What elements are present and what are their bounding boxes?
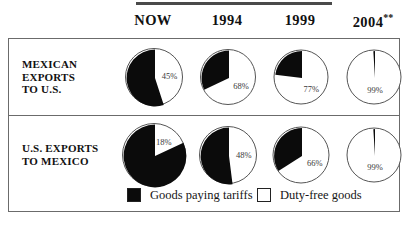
legend-item-tariff: Goods paying tariffs — [127, 183, 253, 207]
column-header-label: 1994 — [212, 12, 243, 28]
legend-label: Goods paying tariffs — [150, 188, 253, 203]
row-label-line: EXPORTS — [22, 71, 114, 83]
pie-slice-goods-paying-tariffs — [127, 50, 164, 107]
legend: Goods paying tariffsDuty-free goods — [9, 183, 399, 207]
infographic-root: NOW199419992004** MEXICANEXPORTSTO U.S.4… — [0, 0, 417, 228]
pie-slices — [275, 51, 330, 106]
column-header-label: 2004 — [353, 14, 384, 30]
pie-chart: 99% — [347, 127, 402, 182]
pie-slices — [201, 50, 257, 106]
column-header-row: NOW199419992004** — [8, 12, 401, 36]
pie-slices — [348, 128, 403, 183]
pie-chart: 99% — [347, 50, 402, 105]
pie-value-label: 48% — [236, 150, 252, 160]
row-label-line: MEXICAN — [22, 58, 114, 70]
column-header-3: 1999 — [263, 12, 337, 29]
pie-value-label: 77% — [304, 84, 320, 94]
pie-cell: 66% — [264, 116, 338, 193]
column-header-4: 2004** — [336, 12, 410, 31]
row-label-line: TO U.S. — [22, 83, 114, 95]
pie-value-label: 68% — [233, 81, 249, 91]
pie-slices — [274, 127, 331, 184]
pie-chart: 45% — [125, 48, 183, 106]
column-header-2: 1994 — [190, 12, 264, 29]
pie-chart: 48% — [199, 126, 257, 184]
top-divider-rule — [136, 2, 332, 5]
pie-slices — [123, 124, 187, 188]
pie-chart: 68% — [200, 49, 256, 105]
table-row: U.S. EXPORTSTO MEXICO18%48%66%99% — [9, 116, 399, 193]
pie-slice-goods-paying-tariffs — [275, 51, 302, 78]
legend-label: Duty-free goods — [280, 188, 362, 203]
row-label-line: TO MEXICO — [22, 155, 114, 167]
column-header-label: NOW — [134, 12, 171, 28]
pie-slices — [348, 51, 403, 106]
pie-value-label: 99% — [367, 84, 383, 94]
pie-slice-goods-paying-tariffs — [373, 51, 375, 78]
pie-cell: 77% — [264, 39, 338, 115]
pie-slice-goods-paying-tariffs — [201, 127, 233, 184]
pie-slice-goods-paying-tariffs — [124, 124, 187, 187]
pie-cell: 99% — [337, 116, 411, 193]
pie-cell: 45% — [117, 39, 191, 115]
legend-swatch-duty-free — [257, 188, 271, 202]
table-row: MEXICANEXPORTSTO U.S.45%68%77%99% — [9, 39, 399, 116]
pie-value-label: 66% — [307, 158, 323, 168]
pie-value-label: 18% — [156, 137, 172, 147]
pie-cell: 18% — [117, 116, 191, 193]
column-header-label: 1999 — [285, 12, 316, 28]
pie-slice-goods-paying-tariffs — [373, 129, 375, 156]
pie-slice-goods-paying-tariffs — [202, 51, 229, 90]
pie-value-label: 45% — [162, 71, 178, 81]
pie-cell: 99% — [337, 39, 411, 115]
pie-chart: 66% — [273, 126, 330, 183]
row-label: U.S. EXPORTSTO MEXICO — [22, 116, 114, 193]
pie-cell: 68% — [191, 39, 265, 115]
row-label: MEXICANEXPORTSTO U.S. — [22, 39, 114, 115]
legend-item-duty-free: Duty-free goods — [257, 183, 362, 207]
column-header-footnote-marker: ** — [383, 12, 393, 23]
pie-cell: 48% — [191, 116, 265, 193]
pie-slice-goods-paying-tariffs — [274, 128, 302, 171]
pie-value-label: 99% — [367, 162, 383, 172]
chart-table-box: MEXICANEXPORTSTO U.S.45%68%77%99% U.S. E… — [8, 38, 400, 212]
pie-chart: 77% — [274, 50, 329, 105]
row-label-line: U.S. EXPORTS — [22, 142, 114, 154]
column-header-1: NOW — [116, 12, 190, 29]
pie-chart: 18% — [122, 123, 186, 187]
legend-swatch-tariff — [127, 188, 141, 202]
